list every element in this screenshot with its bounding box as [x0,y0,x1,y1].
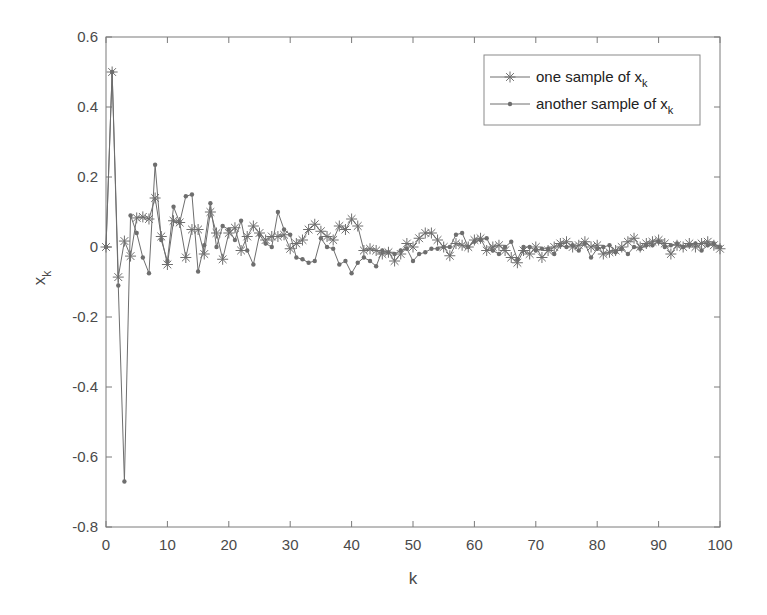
star-marker-icon [505,72,516,83]
dot-marker [214,245,218,249]
dot-marker [435,247,439,251]
dot-marker [276,210,280,214]
star-marker [143,214,154,225]
dot-marker [392,252,396,256]
star-marker [119,236,130,247]
star-marker [315,226,326,237]
star-marker [199,249,210,260]
star-marker [414,233,425,244]
dot-marker [362,255,366,259]
dot-marker [399,248,403,252]
dot-marker [374,264,378,268]
star-marker [346,214,357,225]
dot-marker [368,259,372,263]
dot-marker [601,245,605,249]
dot-marker [165,259,169,263]
dot-marker [656,240,660,244]
star-marker [340,224,351,235]
star-marker [444,250,455,261]
dot-marker [527,245,531,249]
dot-marker [313,259,317,263]
dot-marker [245,248,249,252]
dot-marker [429,247,433,251]
dot-marker [141,255,145,259]
dot-marker [282,227,286,231]
y-tick-label: 0.2 [77,168,98,185]
dot-marker [251,262,255,266]
star-marker [505,72,516,83]
dot-marker [650,243,654,247]
dot-marker [595,247,599,251]
dot-marker [423,250,427,254]
y-tick-label: -0.4 [72,378,98,395]
dot-marker [577,248,581,252]
y-tick-label: 0.4 [77,98,98,115]
dot-marker [503,245,507,249]
dot-marker [687,243,691,247]
star-marker [408,242,419,253]
dot-marker [319,236,323,240]
dot-marker [128,213,132,217]
star-marker [180,252,191,263]
y-tick-label: -0.6 [72,448,98,465]
dot-marker [257,233,261,237]
dot-marker [104,245,108,249]
dot-marker [110,70,114,74]
dot-marker [405,247,409,251]
star-marker [297,235,308,246]
y-tick-label: -0.8 [72,518,98,535]
dot-marker [300,257,304,261]
dot-marker [712,241,716,245]
dot-marker [693,241,697,245]
star-marker [524,249,535,260]
dot-marker [515,257,519,261]
x-tick-label: 20 [220,536,237,553]
star-marker [309,219,320,230]
dot-marker [472,240,476,244]
x-tick-label: 10 [159,536,176,553]
dot-marker [196,269,200,273]
dot-marker [159,238,163,242]
dot-marker [239,219,243,223]
dot-marker [491,248,495,252]
dot-marker [448,245,452,249]
x-tick-label: 0 [102,536,110,553]
dot-marker [270,245,274,249]
x-tick-label: 100 [707,536,732,553]
dot-marker [484,236,488,240]
dot-marker [343,259,347,263]
dot-marker [607,243,611,247]
x-tick-label: 80 [589,536,606,553]
dot-marker [583,241,587,245]
dot-marker [626,252,630,256]
x-axis-label: k [409,569,418,588]
dot-marker [380,248,384,252]
series-line [106,72,720,482]
dot-marker [497,252,501,256]
series-another-sample [104,70,722,484]
dot-marker [202,243,206,247]
dot-marker [632,245,636,249]
dot-marker [546,247,550,251]
dot-marker [337,262,341,266]
x-tick-label: 90 [650,536,667,553]
dot-marker [699,248,703,252]
dot-marker [220,224,224,228]
dot-marker [460,231,464,235]
star-marker [217,254,228,265]
dot-marker [564,245,568,249]
y-tick-label: 0.6 [77,28,98,45]
dot-marker [184,194,188,198]
dot-marker [116,283,120,287]
dot-marker [466,245,470,249]
y-tick-label: 0 [90,238,98,255]
dot-marker [521,245,525,249]
star-marker [389,256,400,267]
star-marker [352,221,363,232]
star-marker [328,235,339,246]
dot-marker [558,243,562,247]
x-tick-label: 60 [466,536,483,553]
dot-marker [208,201,212,205]
dot-marker [153,163,157,167]
svg-text:xk: xk [30,270,54,286]
